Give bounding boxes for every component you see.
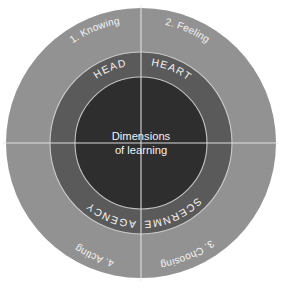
center-title-line1: Dimensions — [112, 130, 171, 142]
dimensions-of-learning-diagram: 1. Knowing 2. Feeling 3. Choosing 4. Act… — [0, 0, 283, 288]
center-title-line2: of learning — [115, 144, 167, 156]
wheel-svg: 1. Knowing 2. Feeling 3. Choosing 4. Act… — [0, 0, 283, 288]
